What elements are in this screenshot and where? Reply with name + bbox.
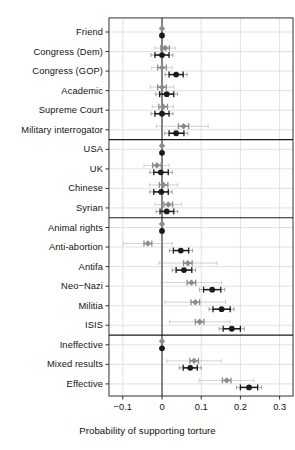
x-tick-label: 0: [159, 402, 164, 412]
forest-plot-figure: FriendCongress (Dem)Congress (GOP)Academ…: [0, 0, 295, 450]
x-tick-label: 0.1: [195, 402, 208, 412]
x-axis-tick-labels: −0.100.10.20.3: [0, 0, 295, 450]
x-tick-label: 0.3: [273, 402, 286, 412]
x-tick-label: 0.2: [234, 402, 247, 412]
x-tick-label: −0.1: [114, 402, 132, 412]
x-axis-title: Probability of supporting torture: [0, 425, 295, 436]
